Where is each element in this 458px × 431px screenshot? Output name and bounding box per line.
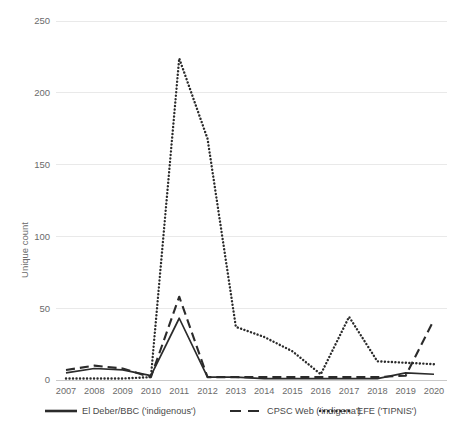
x-axis-tick-label: 2020 bbox=[424, 386, 444, 396]
line-chart: 050100150200250 200720082009201020112012… bbox=[0, 0, 458, 431]
x-axis-tick-label: 2008 bbox=[84, 386, 104, 396]
series-line bbox=[66, 297, 434, 377]
x-axis-tick-label: 2018 bbox=[367, 386, 387, 396]
x-axis-tick-label: 2007 bbox=[56, 386, 76, 396]
series-line bbox=[66, 318, 434, 378]
x-axis-tick-label: 2010 bbox=[141, 386, 161, 396]
y-axis-ticks: 050100150200250 bbox=[34, 15, 50, 385]
y-axis-title: Unique count bbox=[19, 222, 30, 278]
chart-legend: El Deber/BBC ('indigenous')CPSC Web ('in… bbox=[45, 406, 417, 416]
figure-caption-partial bbox=[0, 419, 458, 431]
legend-label: El Deber/BBC ('indigenous') bbox=[82, 406, 196, 416]
x-axis-tick-label: 2016 bbox=[311, 386, 331, 396]
chart-canvas: 050100150200250 200720082009201020112012… bbox=[0, 0, 458, 431]
data-series bbox=[66, 58, 434, 378]
x-axis-tick-label: 2019 bbox=[395, 386, 415, 396]
x-axis-tick-label: 2014 bbox=[254, 386, 274, 396]
series-line bbox=[66, 58, 434, 378]
x-axis-tick-label: 2011 bbox=[169, 386, 189, 396]
x-axis-tick-label: 2013 bbox=[226, 386, 246, 396]
y-axis-tick-label: 50 bbox=[39, 303, 50, 314]
x-axis-ticks: 2007200820092010201120122013201420152016… bbox=[56, 386, 444, 396]
x-axis-tick-label: 2012 bbox=[197, 386, 217, 396]
legend-label: CPSC Web ('indigena') bbox=[267, 406, 361, 416]
y-axis-tick-label: 250 bbox=[34, 15, 50, 26]
gridlines bbox=[56, 21, 447, 380]
x-axis-tick-label: 2015 bbox=[282, 386, 302, 396]
y-axis-tick-label: 100 bbox=[34, 231, 50, 242]
y-axis-tick-label: 200 bbox=[34, 87, 50, 98]
x-axis-tick-label: 2017 bbox=[339, 386, 359, 396]
legend-label: EFE ('TIPNIS') bbox=[357, 406, 417, 416]
y-axis-tick-label: 0 bbox=[45, 374, 50, 385]
x-axis-tick-label: 2009 bbox=[112, 386, 132, 396]
y-axis-tick-label: 150 bbox=[34, 159, 50, 170]
